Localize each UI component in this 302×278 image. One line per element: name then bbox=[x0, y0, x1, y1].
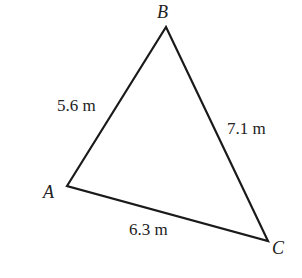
vertex-label-b: B bbox=[157, 2, 168, 22]
side-label-bc: 7.1 m bbox=[227, 119, 266, 138]
vertex-label-a: A bbox=[42, 182, 55, 202]
side-label-ab: 5.6 m bbox=[57, 96, 96, 115]
side-label-ac: 6.3 m bbox=[129, 220, 168, 239]
triangle-diagram: B A C 5.6 m 7.1 m 6.3 m bbox=[0, 0, 302, 278]
vertex-label-c: C bbox=[272, 238, 285, 258]
